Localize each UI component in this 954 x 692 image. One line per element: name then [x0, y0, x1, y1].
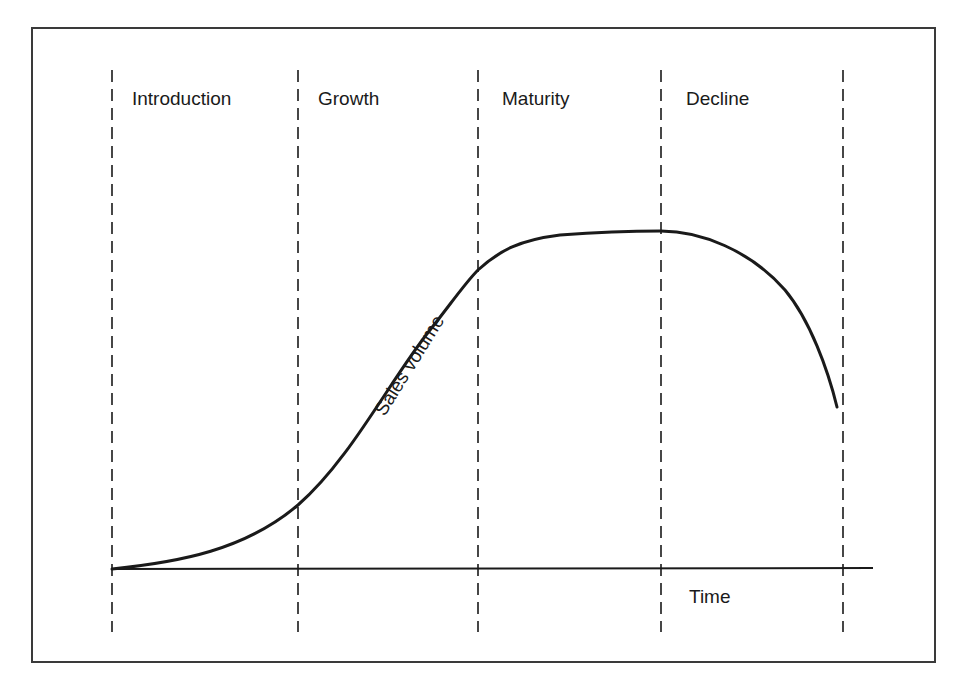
x-axis-label-time: Time: [689, 586, 731, 608]
stage-label-maturity: Maturity: [502, 88, 570, 110]
stage-label-growth: Growth: [318, 88, 379, 110]
sales-volume-curve: [112, 231, 837, 569]
stage-label-introduction: Introduction: [132, 88, 231, 110]
stage-label-decline: Decline: [686, 88, 749, 110]
time-axis: [112, 568, 873, 569]
